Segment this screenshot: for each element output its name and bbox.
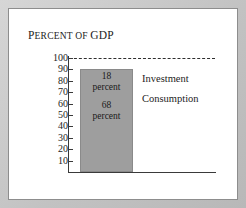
y-tick-label: 20 (44, 144, 68, 154)
consumption-unit: percent (80, 111, 133, 122)
y-axis-title-rest: ERCENT OF (35, 31, 91, 41)
y-tick-label: 70 (44, 87, 68, 97)
y-tick-mark (68, 138, 73, 139)
y-tick-mark (68, 126, 73, 127)
investment-unit: percent (80, 82, 133, 93)
legend-item-investment: Investment (142, 73, 189, 85)
y-axis-title-gdp: GDP (90, 29, 114, 41)
y-tick-label: 10 (44, 156, 68, 166)
y-tick-mark (68, 58, 73, 59)
investment-value: 18 (80, 71, 133, 82)
y-tick-label: 90 (44, 64, 68, 74)
reference-line-100 (69, 58, 215, 59)
y-tick-label: 30 (44, 133, 68, 143)
y-tick-mark (68, 69, 73, 70)
y-tick-label: 80 (44, 76, 68, 86)
consumption-value: 68 (80, 100, 133, 111)
y-tick-mark (68, 115, 73, 116)
bar-segment-investment-label: 18 percent (80, 71, 133, 92)
y-tick-label: 50 (44, 110, 68, 120)
y-tick-mark (68, 149, 73, 150)
y-tick-mark (68, 92, 73, 93)
y-tick-mark (68, 104, 73, 105)
y-tick-mark (68, 161, 73, 162)
y-tick-label: 100 (44, 53, 68, 63)
legend-item-consumption: Consumption (142, 93, 199, 105)
bar-segment-consumption-label: 68 percent (80, 100, 133, 121)
x-axis-line (68, 172, 216, 173)
y-axis-title: PERCENT OF GDP (28, 29, 114, 41)
y-tick-label: 60 (44, 99, 68, 109)
chart-figure: PERCENT OF GDP 100 90 80 70 60 50 40 30 … (0, 0, 246, 208)
y-tick-label: 40 (44, 121, 68, 131)
y-axis-title-initial: P (28, 29, 35, 41)
y-tick-mark (68, 81, 73, 82)
